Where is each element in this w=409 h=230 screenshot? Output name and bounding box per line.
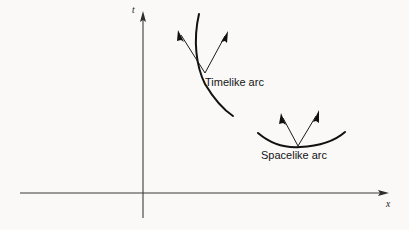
spacelike-arc-label: Spacelike arc (261, 149, 328, 161)
timelike-arc-curve (196, 14, 233, 116)
spacelike-vector-right-arrowhead (313, 110, 319, 123)
spacelike-vector-left-arrowhead (279, 113, 286, 125)
timelike-vector-right-arrowhead (221, 31, 228, 43)
timelike-arc-label: Timelike arc (205, 76, 264, 88)
x-axis-label: x (385, 199, 391, 209)
timelike-vector-left-shaft (181, 35, 205, 73)
spacelike-vector-left-shaft (283, 118, 298, 146)
t-axis-label: t (132, 5, 135, 15)
diagram-canvas: t x Timelike arc Spacelike arc (0, 0, 409, 230)
spacetime-diagram: t x Timelike arc Spacelike arc (0, 0, 409, 230)
spacelike-vector-right-shaft (298, 116, 316, 146)
timelike-vector-left-arrowhead (177, 30, 184, 42)
